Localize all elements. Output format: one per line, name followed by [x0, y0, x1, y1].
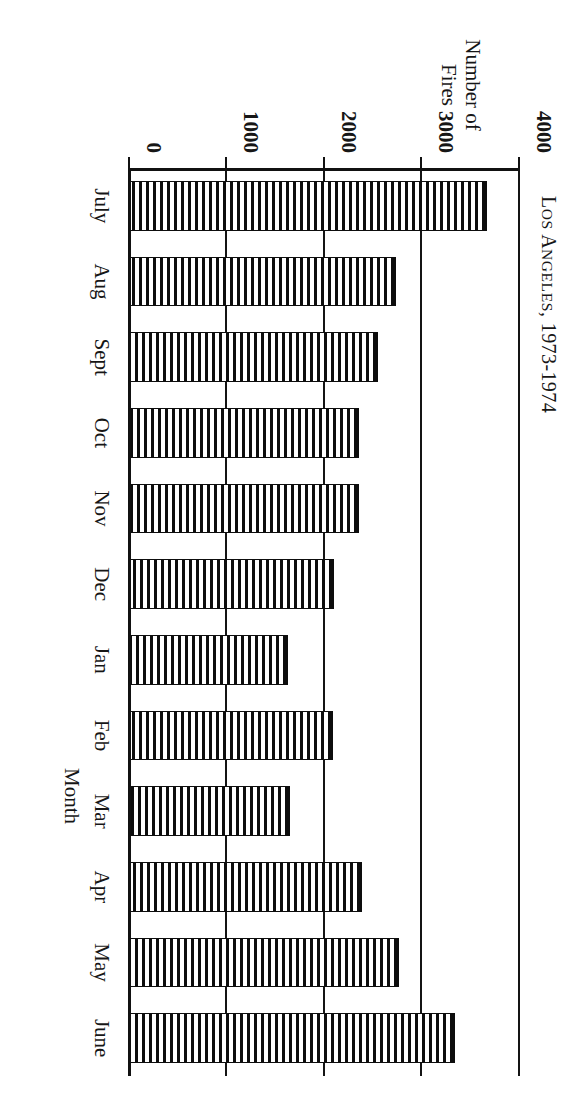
title-smallcaps-os: OS — [539, 209, 556, 235]
title-cap-l: L — [538, 196, 560, 209]
bar — [128, 862, 362, 912]
y-tick-label: 4000 — [531, 111, 556, 153]
title-years: , 1973-1974 — [538, 312, 560, 413]
x-axis-label: Month — [59, 168, 84, 1076]
chart-title: LOS ANGELES, 1973-1974 — [537, 196, 560, 413]
category-label: June — [89, 1019, 114, 1058]
y-tick-mark — [421, 157, 423, 168]
bar — [128, 938, 399, 988]
bar — [128, 257, 396, 307]
category-label: Jan — [89, 646, 114, 674]
title-smallcaps-ngeles: NGELES — [539, 249, 556, 312]
y-tick-label: 3000 — [434, 111, 459, 153]
category-label: Nov — [89, 490, 114, 526]
y-tick-mark — [226, 157, 228, 168]
bar — [128, 181, 487, 231]
category-label: Sept — [89, 338, 114, 375]
bar — [128, 332, 378, 382]
title-cap-a: A — [538, 234, 560, 249]
category-label: Aug — [89, 263, 114, 299]
bar — [128, 559, 334, 609]
x-axis-line — [128, 168, 131, 1076]
category-label: Mar — [89, 794, 114, 829]
category-label: Feb — [89, 720, 114, 752]
y-tick-mark — [128, 157, 130, 168]
y-tick-label: 2000 — [336, 111, 361, 153]
bar — [128, 1013, 455, 1063]
chart-canvas: LOS ANGELES, 1973-1974 Number of Fires 0… — [0, 0, 570, 1098]
gridline — [518, 168, 520, 1076]
category-label: May — [89, 943, 114, 982]
y-tick-label: 1000 — [239, 111, 264, 153]
category-label: Dec — [89, 567, 114, 601]
bar — [128, 786, 290, 836]
bar — [128, 484, 359, 534]
category-label: July — [89, 188, 114, 223]
plot-area: 01000200030004000 JulyAugSeptOctNovDecJa… — [128, 168, 518, 1076]
category-label: Apr — [89, 870, 114, 903]
y-tick-label: 0 — [141, 143, 166, 154]
y-tick-mark — [518, 157, 520, 168]
y-axis-label-line1: Number of — [460, 10, 484, 160]
y-tick-mark — [323, 157, 325, 168]
y-axis-line — [128, 168, 518, 171]
bar — [128, 408, 359, 458]
gridline — [421, 168, 423, 1076]
category-label: Oct — [89, 418, 114, 448]
bar — [128, 711, 333, 761]
bar — [128, 635, 288, 685]
